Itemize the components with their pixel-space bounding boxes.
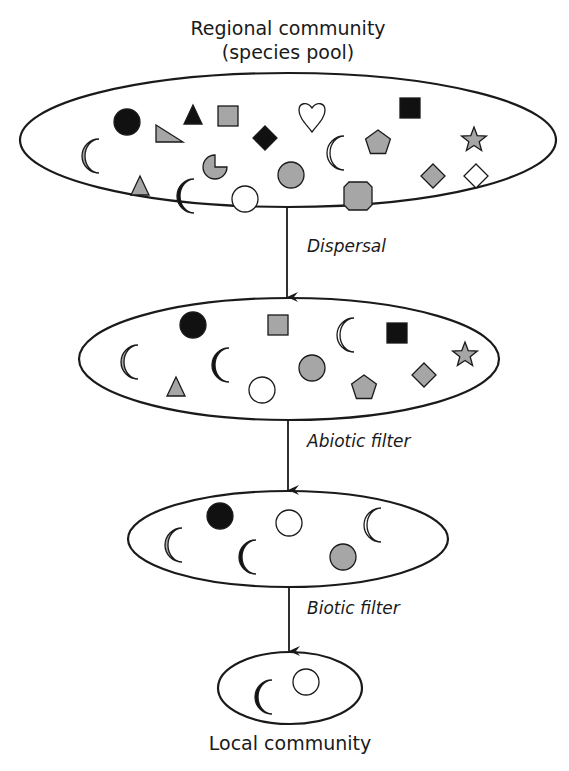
gray-square-icon (268, 315, 288, 335)
black-square-icon (387, 323, 407, 343)
black-circle-icon (207, 503, 233, 529)
black-square-icon (400, 98, 420, 118)
gray-circle-icon (278, 162, 304, 188)
gray-circle-icon (330, 544, 356, 570)
local-community (218, 652, 362, 724)
gray-circle-icon (299, 355, 325, 381)
community-stages (20, 73, 556, 724)
local-community-label: Local community (209, 732, 371, 754)
after-dispersal-ellipse (79, 298, 499, 420)
after-dispersal (79, 298, 499, 420)
gray-octagon-icon (344, 182, 372, 210)
community-assembly-diagram: Regional community (species pool) Disper… (0, 0, 569, 771)
dispersal-label: Dispersal (307, 236, 386, 256)
white-circle-icon (276, 510, 302, 536)
regional-community (20, 73, 556, 213)
after-abiotic-filter-ellipse (128, 491, 448, 587)
biotic-filter-label: Biotic filter (307, 598, 401, 618)
white-circle-icon (249, 377, 275, 403)
white-circle-icon (293, 669, 319, 695)
abiotic-filter-label: Abiotic filter (306, 431, 412, 451)
gray-square-icon (218, 106, 238, 126)
species-pool-subtitle: (species pool) (222, 41, 354, 63)
regional-community-title: Regional community (190, 17, 385, 39)
black-circle-icon (180, 312, 206, 338)
after-abiotic-filter (128, 491, 448, 587)
local-community-ellipse (218, 652, 362, 724)
black-circle-icon (114, 109, 140, 135)
white-circle-icon (232, 186, 258, 212)
